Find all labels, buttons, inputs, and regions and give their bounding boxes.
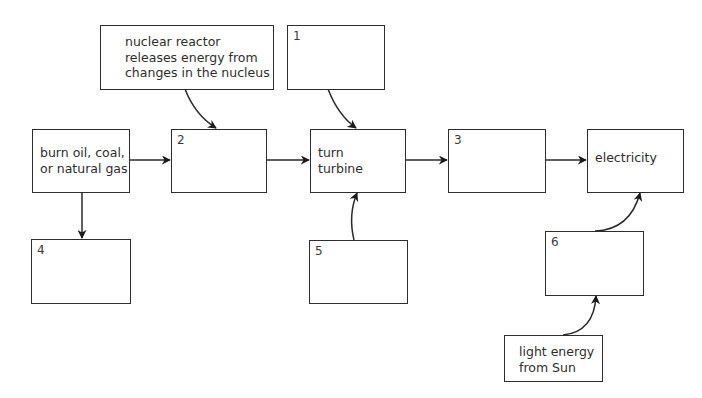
turn-turbine-box: turn turbine bbox=[310, 129, 406, 193]
box-5-label: 5 bbox=[315, 244, 323, 258]
box-6-label: 6 bbox=[551, 235, 559, 249]
blank-box-1[interactable]: 1 bbox=[287, 25, 385, 90]
blank-box-3[interactable]: 3 bbox=[448, 129, 546, 193]
burn-fuel-text: burn oil, coal, or natural gas bbox=[40, 145, 128, 176]
blank-box-4[interactable]: 4 bbox=[31, 239, 131, 304]
light-energy-box: light energy from Sun bbox=[504, 335, 603, 382]
box-3-label: 3 bbox=[454, 133, 462, 147]
blank-box-5[interactable]: 5 bbox=[309, 240, 408, 304]
box-2-label: 2 bbox=[177, 133, 185, 147]
nuclear-reactor-box: nuclear reactor releases energy from cha… bbox=[100, 25, 274, 90]
arrow-5-to-turbine bbox=[352, 193, 357, 240]
nuclear-reactor-text: nuclear reactor releases energy from cha… bbox=[125, 34, 270, 81]
arrow-light-to-6 bbox=[563, 296, 596, 335]
electricity-text: electricity bbox=[595, 150, 657, 166]
box-4-label: 4 bbox=[37, 243, 45, 257]
burn-fuel-box: burn oil, coal, or natural gas bbox=[32, 129, 130, 193]
electricity-box: electricity bbox=[587, 129, 684, 193]
blank-box-2[interactable]: 2 bbox=[171, 129, 267, 193]
box-1-label: 1 bbox=[293, 29, 301, 43]
arrow-1-to-turbine bbox=[328, 89, 356, 128]
arrow-nuclear-to-2 bbox=[185, 89, 216, 128]
arrow-6-to-electricity bbox=[595, 193, 640, 231]
turn-turbine-text: turn turbine bbox=[318, 145, 363, 176]
blank-box-6[interactable]: 6 bbox=[545, 231, 644, 296]
light-energy-text: light energy from Sun bbox=[519, 344, 594, 375]
